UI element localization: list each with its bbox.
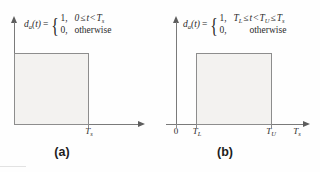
equation-b-case-2: 0, otherwise — [219, 25, 286, 37]
figure-container: da(t) = { 1, 0≤t<Ts 0, otherwise — [0, 0, 320, 172]
equation-a-brace: { — [52, 20, 60, 30]
equation-b: da(t) = { 1, TL≤t<TU≤Ts 0, otherwise — [183, 13, 286, 37]
x-tick-label-a-ts: Ts — [78, 126, 100, 137]
x-tick-label-b-tl: TL — [186, 126, 208, 137]
equation-b-lhs: da(t) — [183, 19, 201, 31]
equation-b-case-2-condition: otherwise — [233, 25, 286, 37]
equation-a-case-1: 1, 0≤t<Ts — [60, 13, 111, 25]
pulse-rectangle-a — [14, 53, 89, 125]
equation-a-cases: 1, 0≤t<Ts 0, otherwise — [60, 13, 111, 37]
panel-a: da(t) = { 1, 0≤t<Ts 0, otherwise — [0, 0, 160, 172]
equation-a-equals: = — [42, 19, 50, 31]
x-axis-arrow-a — [138, 121, 145, 127]
equation-a-case-2-condition: otherwise — [74, 25, 111, 37]
equation-a-case-2: 0, otherwise — [60, 25, 111, 37]
page-edge-line — [0, 166, 26, 167]
y-axis-b — [176, 22, 177, 125]
x-tick-label-b-tu: TU — [260, 126, 282, 137]
equation-b-cases: 1, TL≤t<TU≤Ts 0, otherwise — [219, 13, 286, 37]
equation-a: da(t) = { 1, 0≤t<Ts 0, otherwise — [24, 13, 111, 37]
equation-b-case-1-condition: TL≤t<TU≤Ts — [233, 13, 284, 25]
equation-a-lhs: da(t) — [24, 19, 42, 31]
pulse-rectangle-b — [196, 53, 272, 125]
caption-b: (b) — [205, 145, 245, 159]
panel-b: da(t) = { 1, TL≤t<TU≤Ts 0, otherwise — [160, 0, 320, 172]
equation-b-equals: = — [201, 19, 209, 31]
equation-a-case-1-condition: 0≤t<Ts — [74, 13, 104, 25]
x-tick-label-b-ts: Ts — [286, 126, 308, 137]
equation-b-case-1: 1, TL≤t<TU≤Ts — [219, 13, 286, 25]
caption-a: (a) — [42, 145, 82, 159]
equation-b-brace: { — [211, 20, 219, 30]
x-tick-label-b-zero: 0 — [168, 126, 184, 137]
